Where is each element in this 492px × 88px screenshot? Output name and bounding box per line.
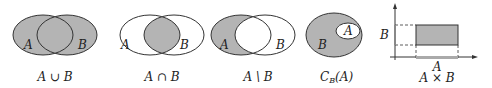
set-operations-diagram: A B A ∪ B A B A ∩ B A B A \ B A B CB(A) <box>0 0 492 88</box>
set-b-label: B <box>275 38 285 52</box>
set-b-label: B <box>179 38 189 52</box>
inner-set-a-label: A <box>343 24 353 38</box>
set-a-label: A <box>219 38 229 52</box>
union-venn: A B A ∪ B <box>13 15 97 84</box>
outer-set-b-label: B <box>317 38 327 52</box>
y-set-label: B <box>379 28 389 42</box>
y-axis-arrow-icon <box>393 3 397 9</box>
cartesian-product-plot: B A A × B <box>379 3 478 85</box>
product-rectangle <box>416 25 458 45</box>
complement-caption: CB(A) <box>320 70 353 85</box>
intersection-caption: A ∩ B <box>143 70 179 84</box>
a-interval <box>416 56 458 59</box>
set-a-label: A <box>23 38 33 52</box>
difference-venn: A B A \ B <box>211 15 295 84</box>
difference-caption: A \ B <box>242 70 272 84</box>
union-caption: A ∪ B <box>36 70 72 84</box>
set-a-label: A <box>120 38 130 52</box>
set-b-label: B <box>77 38 87 52</box>
x-axis-arrow-icon <box>472 55 478 59</box>
complement-venn: A B CB(A) <box>306 13 362 85</box>
intersection-venn: A B A ∩ B <box>120 15 204 84</box>
cartesian-caption: A × B <box>418 71 454 85</box>
b-interval <box>394 25 396 45</box>
